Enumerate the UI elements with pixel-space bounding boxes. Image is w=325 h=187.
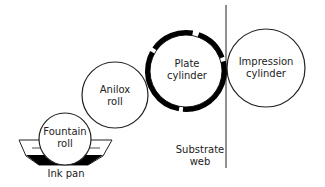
ink-pan-label-text: Ink pan xyxy=(47,168,84,180)
substrate-web-label-line1: Substrate xyxy=(176,144,224,156)
fountain-roll-label-line1: Fountain xyxy=(43,126,86,138)
impression-cylinder-label: Impression cylinder xyxy=(239,56,294,80)
plate-cylinder-label-line1: Plate xyxy=(167,58,207,70)
flexo-diagram xyxy=(0,0,325,187)
impression-cylinder-label-line2: cylinder xyxy=(239,68,294,80)
anilox-roll-label: Anilox roll xyxy=(100,84,130,108)
plate-cylinder-label-line2: cylinder xyxy=(167,70,207,82)
impression-cylinder-label-line1: Impression xyxy=(239,56,294,68)
fountain-roll-label-line2: roll xyxy=(43,138,86,150)
ink-pan-label: Ink pan xyxy=(47,168,84,180)
anilox-roll-label-line2: roll xyxy=(100,96,130,108)
substrate-web-label: Substrate web xyxy=(176,144,224,168)
fountain-roll-label: Fountain roll xyxy=(43,126,86,150)
anilox-roll-label-line1: Anilox xyxy=(100,84,130,96)
substrate-web-label-line2: web xyxy=(176,156,224,168)
plate-cylinder-label: Plate cylinder xyxy=(167,58,207,82)
